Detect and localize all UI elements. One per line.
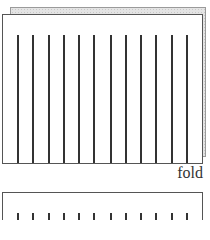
vertical-line	[48, 213, 50, 220]
vertical-line	[155, 213, 157, 220]
vertical-line	[93, 35, 95, 163]
vertical-line	[171, 35, 173, 163]
vertical-line	[48, 35, 50, 163]
vertical-line	[32, 35, 34, 163]
vertical-line	[78, 213, 80, 220]
vertical-line	[32, 213, 34, 220]
vertical-line	[93, 213, 95, 220]
vertical-line	[155, 35, 157, 163]
fold-label: fold	[177, 164, 203, 182]
vertical-line	[125, 213, 127, 220]
vertical-line	[140, 35, 142, 163]
vertical-line	[63, 35, 65, 163]
vertical-line	[171, 213, 173, 220]
vertical-line	[110, 213, 112, 220]
vertical-line	[78, 35, 80, 163]
vertical-line	[17, 35, 19, 163]
vertical-line	[17, 213, 19, 220]
vertical-line	[110, 35, 112, 163]
vertical-line	[186, 35, 188, 163]
vertical-line	[63, 213, 65, 220]
vertical-line	[186, 213, 188, 220]
vertical-line	[125, 35, 127, 163]
vertical-line	[140, 213, 142, 220]
